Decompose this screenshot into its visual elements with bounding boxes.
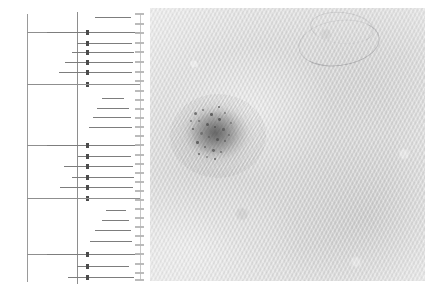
forest-stat-value [135,126,144,128]
confidence-interval-bar [106,210,126,211]
forest-plot-panel [0,0,146,294]
forest-study-row [0,67,146,78]
forest-stat-value [135,154,144,156]
forest-row-label [94,217,110,220]
confidence-interval-bar [93,117,131,118]
point-estimate-marker [86,50,89,55]
figure-canvas [0,0,438,294]
forest-stat-value [135,279,144,281]
point-estimate-marker [86,30,89,35]
point-estimate-marker [86,175,89,180]
confidence-interval-bar [72,52,134,53]
forest-stat-value [135,163,144,165]
forest-stat-value [135,253,144,255]
forest-stat-value [135,144,144,146]
forest-row-label [52,274,76,277]
forest-row-label [80,124,106,127]
forest-row-label [60,49,78,52]
confidence-interval-bar [95,230,131,231]
confidence-interval-bar [47,145,136,146]
forest-study-row [0,27,146,38]
confidence-interval-bar [60,187,133,188]
forest-study-row [0,140,146,151]
confidence-interval-bar [59,72,132,73]
point-estimate-marker [86,41,89,46]
forest-row-label [86,227,108,230]
confidence-interval-bar [47,32,136,33]
point-estimate-marker [86,70,89,75]
forest-row-label [58,174,78,177]
point-estimate-marker [86,143,89,148]
confidence-interval-bar [72,177,134,178]
confidence-interval-bar [47,254,136,255]
forest-stat-value [135,135,144,137]
forest-stat-value [135,208,144,210]
dermoscopy-image [150,8,425,281]
forest-stat-value [135,190,144,192]
confidence-interval-bar [68,277,135,278]
forest-stat-value [135,172,144,174]
forest-study-row [0,122,146,133]
forest-row-label [80,238,107,241]
forest-stat-value [135,235,144,237]
forest-stat-value [135,80,144,82]
forest-row-label [90,105,108,108]
forest-stat-value [135,32,144,34]
forest-stat-value [135,272,144,274]
confidence-interval-bar [97,108,129,109]
forest-stat-value [135,226,144,228]
point-estimate-marker [86,60,89,65]
forest-stat-value [135,71,144,73]
forest-stat-value [135,217,144,219]
point-estimate-marker [86,164,89,169]
forest-stat-value [135,23,144,25]
confidence-interval-bar [64,166,133,167]
forest-row-label [42,69,77,72]
forest-study-row [0,161,146,172]
forest-stat-value [135,99,144,101]
forest-study-row [0,236,146,247]
dermoscopy-panel [150,8,425,281]
forest-study-row [0,261,146,272]
forest-stat-value [135,244,144,246]
forest-stat-value [135,108,144,110]
forest-row-label [86,114,108,117]
forest-stat-value [135,61,144,63]
forest-group-rule [27,198,140,199]
forest-row-label [62,40,78,43]
confidence-interval-bar [89,127,132,128]
confidence-interval-bar [95,17,131,18]
forest-stat-value [135,13,144,15]
confidence-interval-bar [102,98,125,99]
confidence-interval-bar [65,62,133,63]
forest-stat-value [135,117,144,119]
confidence-interval-bar [77,266,129,267]
point-estimate-marker [86,154,89,159]
forest-study-row [0,182,146,193]
forest-row-label [58,14,80,17]
forest-study-row [0,272,146,283]
forest-study-row [0,249,146,260]
forest-stat-value [135,51,144,53]
forest-study-row [0,225,146,236]
forest-row-label [62,263,76,266]
point-estimate-marker [86,264,89,269]
point-estimate-marker [86,252,89,257]
point-estimate-marker [86,275,89,280]
forest-stat-value [135,199,144,201]
forest-row-label [96,95,110,98]
confidence-interval-bar [90,241,132,242]
image-vignette [150,8,425,281]
point-estimate-marker [86,185,89,190]
confidence-interval-bar [102,220,129,221]
forest-row-label [42,184,77,187]
forest-row-label [100,207,112,210]
forest-row-label [48,163,78,166]
forest-row-label [66,153,78,156]
forest-group-rule [27,84,140,85]
forest-study-row [0,12,146,23]
forest-stat-value [135,42,144,44]
forest-row-label [50,59,77,62]
forest-stat-value [135,263,144,265]
forest-stat-value [135,90,144,92]
